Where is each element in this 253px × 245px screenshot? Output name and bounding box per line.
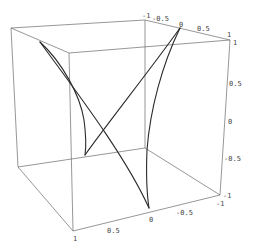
tick-label: 0 (149, 216, 153, 224)
tick-label: 1 (233, 39, 237, 47)
curve-falling-diagonal (40, 42, 149, 208)
curve-right-cusp-branch (147, 28, 180, 208)
tick-label: 0.5 (107, 227, 120, 235)
curve-series (40, 28, 180, 208)
curve-rising-diagonal (85, 28, 180, 155)
tick-label: 1 (73, 235, 77, 243)
tick-label: -1 (142, 12, 150, 20)
tick-label: -1 (223, 192, 231, 200)
tick-label: -0.5 (176, 209, 193, 217)
tick-label: 0.5 (229, 80, 242, 88)
bounding-box (11, 20, 230, 231)
tick-label: -0.5 (152, 15, 169, 23)
tick-label: 0.5 (197, 25, 210, 33)
top-axis-ticks: -1 -0.5 0 0.5 1 (142, 12, 231, 39)
tick-label: 1 (227, 31, 231, 39)
tick-label: 0 (228, 118, 232, 126)
tick-label: -1 (216, 200, 224, 208)
tick-label: 0 (179, 21, 183, 29)
3d-plot: -1 -0.5 0 0.5 1 1 0.5 0 -0.5 -1 -1 -0.5 … (0, 0, 253, 245)
right-axis-ticks: 1 0.5 0 -0.5 -1 (223, 39, 242, 200)
tick-label: -0.5 (224, 155, 241, 163)
curve-left-cusp-branch (40, 42, 86, 155)
